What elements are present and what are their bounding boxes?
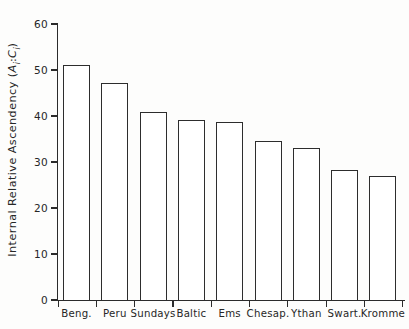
bar-sundays — [140, 112, 167, 300]
y-axis-title-symbol-c: C — [6, 50, 19, 58]
x-axis-tick — [134, 301, 135, 307]
y-axis-tick — [51, 161, 57, 162]
bar-chesap — [255, 141, 282, 300]
x-axis-tick — [58, 301, 59, 307]
x-axis-tick — [96, 301, 97, 307]
bar-peru — [101, 83, 128, 300]
y-axis-tick — [51, 69, 57, 70]
y-axis-tick — [51, 299, 57, 300]
x-axis-category-label: Sundays — [131, 308, 176, 319]
bar-chart-figure: Internal Relative Ascendency (Ai:Ci) 605… — [0, 0, 409, 329]
y-axis-title-close-paren: ) — [6, 43, 19, 48]
bar-kromme — [369, 176, 396, 300]
y-axis-title-subscript-i2: i — [13, 48, 22, 50]
y-axis-tick-label: 10 — [8, 248, 48, 260]
y-axis-tick — [51, 115, 57, 116]
bar-swart — [331, 170, 358, 300]
y-axis-tick-label: 50 — [8, 64, 48, 76]
x-axis-tick — [402, 301, 403, 307]
x-axis-category-label: Peru — [103, 308, 127, 319]
y-axis-tick-label: 30 — [8, 156, 48, 168]
x-axis-category-label: Ems — [218, 308, 240, 319]
x-axis-tick — [172, 301, 173, 307]
x-axis-category-label: Ythan — [291, 308, 322, 319]
x-axis-category-label: Beng. — [61, 308, 92, 319]
bar-beng — [63, 65, 90, 300]
y-axis-tick-label: 0 — [8, 294, 48, 306]
bar-ythan — [293, 148, 320, 300]
y-axis-title-colon: : — [6, 58, 19, 62]
y-axis-tick-label: 20 — [8, 202, 48, 214]
y-axis-tick-label: 60 — [8, 18, 48, 30]
bar-ems — [216, 122, 243, 300]
x-axis-tick — [287, 301, 288, 307]
x-axis-category-label: Swart. — [328, 308, 362, 319]
y-axis-tick-label: 40 — [8, 110, 48, 122]
x-axis-line — [57, 300, 405, 301]
x-axis-category-label: Kromme — [361, 308, 406, 319]
x-axis-category-label: Chesap. — [247, 308, 290, 319]
x-axis-tick — [326, 301, 327, 307]
x-axis-tick — [249, 301, 250, 307]
bar-baltic — [178, 120, 205, 300]
x-axis-tick — [211, 301, 212, 307]
y-axis-tick — [51, 23, 57, 24]
x-axis-tick — [364, 301, 365, 307]
y-axis-tick — [51, 207, 57, 208]
y-axis-line — [57, 23, 58, 301]
x-axis-category-label: Baltic — [176, 308, 206, 319]
y-axis-tick — [51, 253, 57, 254]
